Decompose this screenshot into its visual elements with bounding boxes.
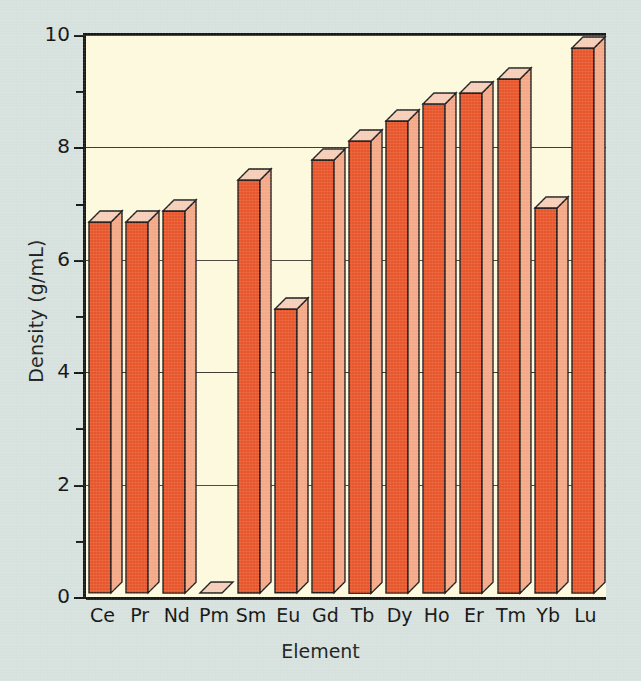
bar-Tb[interactable] [349, 134, 382, 597]
bar-Er[interactable] [460, 86, 493, 597]
bar-side-face [185, 200, 196, 593]
bar-Pr[interactable] [126, 215, 159, 597]
y-tick-label-4: 4 [24, 359, 70, 383]
y-tick-major-6 [74, 260, 86, 262]
bar-front-face [460, 93, 482, 593]
x-tick-label-Ho: Ho [417, 604, 457, 626]
bar-front-face [535, 208, 557, 593]
bar-side-face [482, 82, 493, 593]
bar-side-face [594, 37, 605, 593]
bar-side-face [445, 93, 456, 593]
bar-front-face [238, 180, 260, 593]
gridline-10 [86, 35, 606, 36]
x-tick-label-Yb: Yb [528, 604, 568, 626]
x-axis-title: Element [0, 640, 641, 662]
x-tick-label-Gd: Gd [305, 604, 345, 626]
bar-Ho[interactable] [423, 97, 456, 597]
bar-shape-Er [460, 82, 497, 597]
x-tick-label-Eu: Eu [268, 604, 308, 626]
bar-front-face [572, 48, 594, 593]
y-tick-major-0 [74, 597, 86, 599]
bar-Sm[interactable] [238, 173, 271, 597]
x-tick-label-Nd: Nd [157, 604, 197, 626]
bar-side-face [557, 197, 568, 593]
bar-shape-Dy [386, 110, 423, 597]
bar-front-face [312, 160, 334, 593]
bar-Eu[interactable] [275, 302, 308, 597]
y-tick-label-2: 2 [24, 472, 70, 496]
bar-shape-Eu [275, 298, 312, 597]
bar-front-face [126, 222, 148, 593]
bar-front-face [386, 121, 408, 593]
x-tick-label-Tb: Tb [343, 604, 383, 626]
y-tick-major-10 [74, 35, 86, 37]
plot-area: 0246810 [83, 33, 606, 597]
y-tick-label-6: 6 [24, 247, 70, 271]
bar-front-face [498, 79, 520, 593]
bar-shape-Ho [423, 93, 460, 597]
bar-shape-Lu [572, 37, 609, 597]
bar-front-face [163, 211, 185, 593]
bar-Lu[interactable] [572, 41, 605, 597]
y-tick-label-8: 8 [24, 134, 70, 158]
bar-side-face [520, 68, 531, 593]
bar-Nd[interactable] [163, 204, 196, 597]
bar-shape-Ce [89, 211, 126, 597]
x-tick-label-Er: Er [454, 604, 494, 626]
bar-top-face [200, 582, 233, 593]
y-tick-major-8 [74, 147, 86, 149]
bar-side-face [148, 211, 159, 593]
x-tick-label-Pm: Pm [194, 604, 234, 626]
density-bar-chart: Density (g/mL) 0246810 CePrNdPmSmEuGdTbD… [0, 0, 641, 681]
bar-shape-Gd [312, 149, 349, 597]
y-tick-minor-3 [76, 428, 86, 430]
bar-front-face [275, 309, 297, 593]
bar-Gd[interactable] [312, 153, 345, 597]
bar-Tm[interactable] [498, 72, 531, 597]
bar-Ce[interactable] [89, 215, 122, 597]
bar-side-face [371, 130, 382, 593]
bar-shape-Sm [238, 169, 275, 597]
bar-side-face [260, 169, 271, 593]
y-tick-label-10: 10 [24, 22, 70, 46]
x-tick-label-Lu: Lu [565, 604, 605, 626]
bar-Dy[interactable] [386, 114, 419, 597]
y-tick-major-2 [74, 485, 86, 487]
bar-shape-Tb [349, 130, 386, 597]
bar-front-face [423, 104, 445, 593]
bar-front-face [89, 222, 111, 593]
bar-Pm[interactable] [200, 586, 233, 597]
x-axis-line [86, 597, 606, 600]
y-tick-minor-1 [76, 541, 86, 543]
bar-shape-Nd [163, 200, 200, 597]
bar-side-face [334, 149, 345, 593]
y-tick-major-4 [74, 372, 86, 374]
x-tick-label-Sm: Sm [231, 604, 271, 626]
y-tick-minor-5 [76, 316, 86, 318]
x-tick-label-Dy: Dy [380, 604, 420, 626]
bar-shape-Yb [535, 197, 572, 597]
bar-front-face [349, 141, 371, 593]
bar-shape-Pm [200, 582, 237, 597]
bar-Yb[interactable] [535, 201, 568, 597]
bar-shape-Tm [498, 68, 535, 597]
bar-side-face [408, 110, 419, 593]
bar-side-face [297, 298, 308, 593]
x-tick-label-Ce: Ce [83, 604, 123, 626]
y-tick-minor-9 [76, 91, 86, 93]
x-tick-label-Tm: Tm [491, 604, 531, 626]
y-tick-minor-7 [76, 204, 86, 206]
x-tick-label-Pr: Pr [120, 604, 160, 626]
bar-side-face [111, 211, 122, 593]
bar-shape-Pr [126, 211, 163, 597]
y-tick-label-0: 0 [24, 584, 70, 608]
